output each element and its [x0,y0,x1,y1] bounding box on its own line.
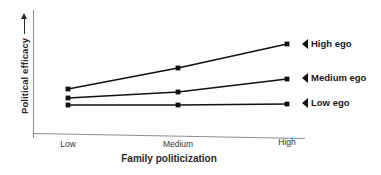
callout-low-ego-label: Low ego [311,97,350,108]
data-point-marker [66,103,71,108]
x-tick-low: Low [60,139,76,149]
series-line-medium-ego [68,79,287,98]
callout-high-ego-label: High ego [311,38,352,49]
chart-figure: Political efficacy Low Medium High Famil… [0,0,381,175]
left-triangle-marker-icon [302,39,308,49]
left-triangle-marker-icon [302,73,308,83]
x-tick-high: High [278,137,295,147]
callout-medium-ego: Medium ego [302,72,366,83]
data-point-marker [66,87,71,92]
x-tick-medium: Medium [163,139,193,149]
callout-medium-ego-label: Medium ego [311,72,366,83]
x-axis-title: Family politicization [121,153,217,164]
left-triangle-marker-icon [302,98,308,108]
data-point-marker [285,77,290,82]
data-point-marker [285,42,290,47]
data-point-marker [176,103,181,108]
callout-low-ego: Low ego [302,97,350,108]
data-point-marker [176,66,181,71]
callout-high-ego: High ego [302,38,352,49]
data-point-marker [66,96,71,101]
data-point-marker [285,102,290,107]
data-point-marker [176,90,181,95]
